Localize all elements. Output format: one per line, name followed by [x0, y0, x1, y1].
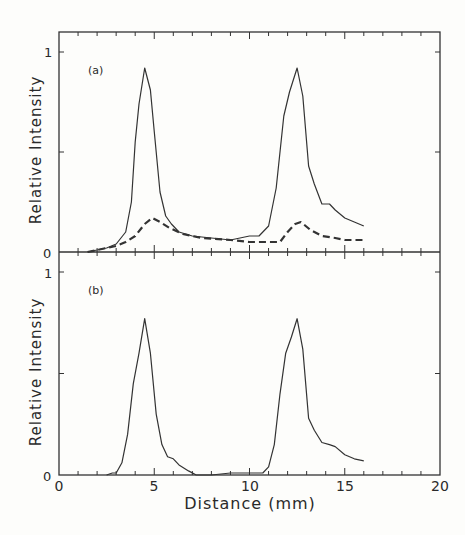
- figure: (a) (b) 1 0 1 0 Relative Intensity Relat…: [0, 0, 465, 535]
- series-solid-panel-a: [88, 68, 364, 252]
- panel-label-a: (a): [88, 64, 103, 77]
- ylabel-a: Relative Intensity: [27, 76, 45, 225]
- xlabel: Distance (mm): [184, 494, 316, 513]
- ytick-b-0: 0: [43, 469, 51, 484]
- panel-label-b: (b): [88, 284, 104, 297]
- xtick-15: 15: [336, 478, 354, 494]
- curves: [88, 68, 364, 475]
- series-dashed-panel-a: [88, 218, 364, 252]
- axis-ticks: [59, 32, 440, 475]
- ylabel-b: Relative Intensity: [27, 298, 45, 447]
- xtick-20: 20: [431, 478, 449, 494]
- ytick-b-1: 1: [44, 266, 52, 281]
- ytick-a-0: 0: [43, 246, 51, 261]
- ytick-a-1: 1: [44, 45, 52, 60]
- xtick-5: 5: [150, 478, 159, 494]
- series-solid-panel-b: [107, 319, 364, 475]
- xtick-0: 0: [55, 478, 64, 494]
- xtick-10: 10: [241, 478, 259, 494]
